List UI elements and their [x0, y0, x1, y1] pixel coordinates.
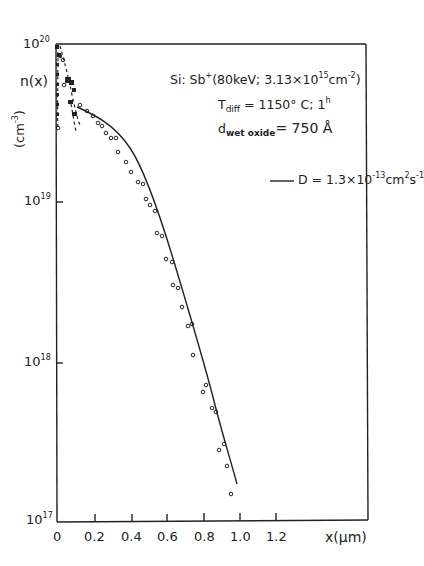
y-axis-unit: (cm-3) — [12, 110, 27, 148]
x-tick-1.0: 1.0 — [230, 529, 251, 544]
x-tick-0.8: 0.8 — [194, 529, 215, 544]
plot-frame — [56, 44, 368, 522]
y-tick-1e20: 1020 — [23, 36, 50, 51]
dashed-surface-curves — [58, 46, 80, 132]
x-tick-1.2: 1.2 — [266, 529, 287, 544]
annotation-implant: Si: Sb+(80keV; 3.13×1015cm-2) — [170, 72, 361, 87]
y-tick-1e17: 1017 — [26, 512, 53, 527]
y-tick-1e18: 1018 — [24, 354, 51, 369]
y-tick-1e19: 1019 — [24, 193, 51, 208]
x-axis-title: x(µm) — [325, 529, 367, 545]
x-tick-0.6: 0.6 — [157, 529, 178, 544]
fit-curve — [77, 107, 237, 484]
data-points — [56, 54, 233, 496]
y-axis-title: n(x) — [20, 73, 48, 89]
x-tick-0.2: 0.2 — [84, 529, 105, 544]
x-tick-0: 0 — [53, 529, 61, 544]
x-tick-0.4: 0.4 — [121, 529, 142, 544]
annotation-diffusion: Tdiff = 1150° C; 1h — [218, 97, 330, 112]
legend-label: D = 1.3×10-13cm2s-1 — [298, 172, 424, 187]
annotation-oxide: dwet oxide= 750 Å — [218, 120, 332, 136]
